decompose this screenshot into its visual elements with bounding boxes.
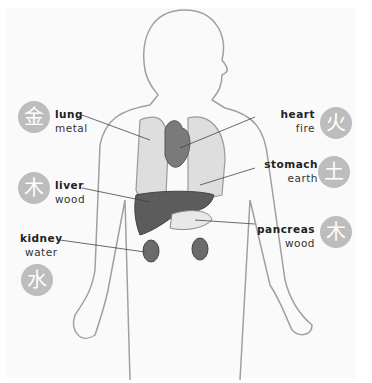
element-name: earth	[240, 171, 318, 185]
pancreas	[170, 211, 212, 230]
organ-label-liver: liver wood	[55, 178, 85, 206]
organ-label-heart: heart fire	[240, 107, 315, 135]
element-name: fire	[240, 121, 315, 135]
lung-right	[188, 117, 225, 197]
element-name: wood	[240, 236, 315, 250]
organ-name: pancreas	[240, 222, 315, 236]
organ-name: kidney	[20, 231, 63, 245]
fire-glyph-badge: 火	[320, 107, 352, 139]
organ-label-stomach: stomach earth	[240, 157, 318, 185]
heart	[165, 121, 190, 167]
organ-name: liver	[55, 178, 85, 192]
element-name: wood	[55, 192, 85, 206]
wood-glyph-badge: 木	[320, 216, 352, 248]
organ-name: lung	[55, 107, 88, 121]
element-name: metal	[55, 121, 88, 135]
organ-label-pancreas: pancreas wood	[240, 222, 315, 250]
organ-name: heart	[240, 107, 315, 121]
organ-label-kidney: kidney water	[20, 231, 63, 259]
lung-left	[136, 117, 168, 198]
element-name: water	[20, 245, 63, 259]
wood-glyph-badge: 木	[18, 172, 50, 204]
metal-glyph-badge: 金	[18, 101, 50, 133]
earth-glyph-badge: 土	[318, 156, 350, 188]
organ-label-lung: lung metal	[55, 107, 88, 135]
organ-name: stomach	[240, 157, 318, 171]
water-glyph-badge: 水	[21, 264, 53, 296]
